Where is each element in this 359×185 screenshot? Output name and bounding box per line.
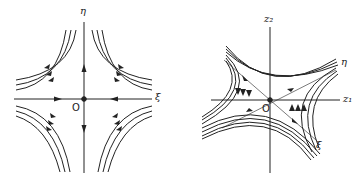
right-eta-label: η [341,57,347,67]
left-eta-label: η [80,6,86,16]
right-saddle-diagram [202,27,340,173]
left-xi-label: ξ [155,92,161,102]
left-saddle-diagram [14,22,152,173]
right-xi-label: ξ [316,140,322,150]
diagram-canvas [0,0,359,185]
right-z1-label: z₁ [343,94,352,104]
right-origin-label: O [262,104,270,114]
origin-point [82,97,87,102]
left-origin-label: O [72,103,80,113]
origin-point [268,98,273,103]
right-z2-label: z₂ [264,14,273,24]
